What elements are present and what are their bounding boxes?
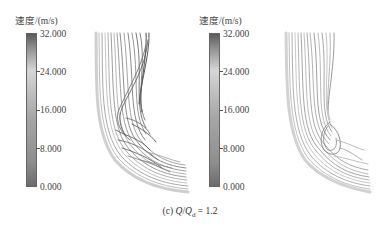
streamline-plot <box>0 0 190 200</box>
panel-right: 速度/(m/s) 32.000 24.000 16.000 8.000 0.00… <box>190 0 380 200</box>
panel-left: 速度/(m/s) 32.000 24.000 16.000 8.000 0.00… <box>0 0 190 200</box>
streamline-plot <box>190 0 380 200</box>
figure-caption: (c) Q/Qd = 1.2 <box>0 206 380 219</box>
